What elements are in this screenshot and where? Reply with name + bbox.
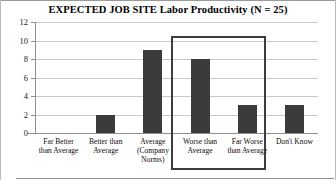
x-axis-tick-label-line: Average bbox=[82, 146, 129, 155]
bar bbox=[143, 50, 162, 133]
gridline bbox=[35, 22, 318, 23]
x-axis-tick-label-line: Far Better bbox=[35, 137, 82, 146]
x-axis-tick-label-line: Far Worse bbox=[224, 137, 271, 146]
x-axis-tick-label-line: Average bbox=[129, 137, 176, 146]
y-axis-tick-label: 4 bbox=[2, 92, 28, 101]
figure-border-left bbox=[0, 0, 1, 180]
gridline bbox=[35, 41, 318, 42]
y-axis-tick-label: 8 bbox=[2, 55, 28, 64]
x-axis-tick-label-line: (Company bbox=[129, 146, 176, 155]
x-axis-tick-label-line: Norms) bbox=[129, 155, 176, 164]
y-axis-tick-label: 6 bbox=[2, 74, 28, 83]
figure-border-bottom bbox=[16, 178, 334, 179]
y-axis-tick-mark bbox=[31, 133, 35, 134]
y-axis-tick-mark bbox=[31, 59, 35, 60]
gridline bbox=[35, 115, 318, 116]
x-axis-tick-label-line: Better than bbox=[82, 137, 129, 146]
x-axis-tick-label: Far Worsethan Average bbox=[224, 137, 271, 155]
x-axis-tick-label: Worse thanAverage bbox=[177, 137, 224, 155]
y-axis-tick-label: 0 bbox=[2, 129, 28, 138]
y-axis-line bbox=[35, 22, 36, 134]
x-axis-tick-label: Better thanAverage bbox=[82, 137, 129, 155]
y-axis-tick-mark bbox=[31, 96, 35, 97]
x-axis-tick-label: Don't Know bbox=[271, 137, 318, 146]
x-axis-tick-label-line: than Average bbox=[35, 146, 82, 155]
y-axis-tick-label: 10 bbox=[2, 37, 28, 46]
y-axis-tick-mark bbox=[31, 115, 35, 116]
chart-title: EXPECTED JOB SITE Labor Productivity (N … bbox=[0, 4, 336, 15]
bar bbox=[96, 115, 115, 134]
chart-figure: EXPECTED JOB SITE Labor Productivity (N … bbox=[0, 0, 336, 188]
y-axis-tick-label: 2 bbox=[2, 111, 28, 120]
x-axis-line bbox=[28, 133, 318, 134]
plot-area bbox=[35, 22, 318, 133]
gridline bbox=[35, 96, 318, 97]
y-axis-tick-mark bbox=[31, 22, 35, 23]
x-axis-tick-label-line: Don't Know bbox=[271, 137, 318, 146]
gridline bbox=[35, 59, 318, 60]
figure-border-top bbox=[0, 0, 336, 1]
x-axis-tick-label: Average(CompanyNorms) bbox=[129, 137, 176, 165]
bar bbox=[285, 105, 304, 133]
x-axis-tick-label-line: Average bbox=[177, 146, 224, 155]
x-axis-labels: Far Betterthan AverageBetter thanAverage… bbox=[35, 137, 318, 175]
gridline bbox=[35, 78, 318, 79]
x-axis-tick-label-line: than Average bbox=[224, 146, 271, 155]
x-axis-tick-label-line: Worse than bbox=[177, 137, 224, 146]
x-axis-tick-label: Far Betterthan Average bbox=[35, 137, 82, 155]
y-axis-tick-mark bbox=[31, 78, 35, 79]
y-axis-tick-mark bbox=[31, 41, 35, 42]
bar bbox=[238, 105, 257, 133]
y-axis-tick-label: 12 bbox=[2, 18, 28, 27]
bar bbox=[191, 59, 210, 133]
